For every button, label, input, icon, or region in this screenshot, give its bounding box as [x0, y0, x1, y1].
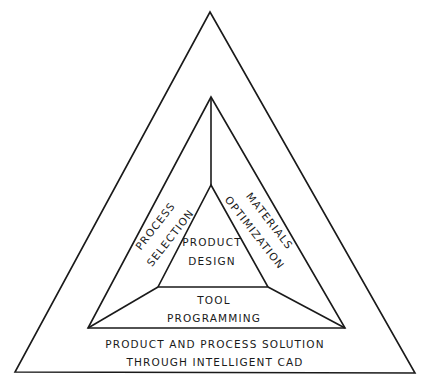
nested-triangle-diagram: PRODUCT DESIGN PROCESS SELECTION MATERIA…	[0, 0, 429, 388]
caption-line2: THROUGH INTELLIGENT CAD	[125, 356, 303, 368]
diagram-container: PRODUCT DESIGN PROCESS SELECTION MATERIA…	[0, 0, 429, 388]
product-design-label-line2: DESIGN	[188, 255, 235, 267]
tool-programming-label-line1: TOOL	[196, 294, 230, 306]
caption-line1: PRODUCT AND PROCESS SOLUTION	[105, 338, 325, 350]
product-design-label-line1: PRODUCT	[182, 236, 241, 248]
tool-programming-label-line2: PROGRAMMING	[167, 312, 261, 324]
